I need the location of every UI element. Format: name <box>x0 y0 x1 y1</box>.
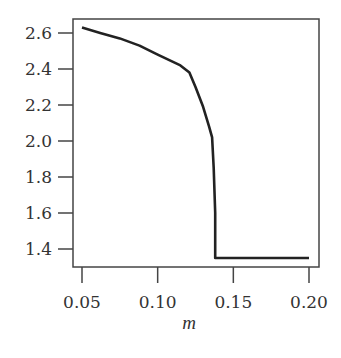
x-axis-title: m <box>182 312 196 333</box>
x-tick-label: 0.20 <box>290 292 328 312</box>
x-tick-label: 0.10 <box>139 292 177 312</box>
x-tick-label: 0.15 <box>214 292 252 312</box>
plot-frame <box>73 19 319 267</box>
y-tick-label: 2.6 <box>25 23 52 43</box>
y-tick-label: 1.4 <box>25 239 52 259</box>
x-axis: 0.050.100.150.20 <box>63 267 328 312</box>
y-tick-label: 2.0 <box>25 131 52 151</box>
y-tick-label: 2.2 <box>25 95 52 115</box>
chart: 2.62.42.22.01.81.61.4 0.050.100.150.20 m <box>0 0 341 358</box>
data-line <box>82 28 309 258</box>
y-tick-label: 2.4 <box>25 59 52 79</box>
y-axis: 2.62.42.22.01.81.61.4 <box>25 23 73 259</box>
x-tick-label: 0.05 <box>63 292 101 312</box>
y-tick-label: 1.8 <box>25 167 52 187</box>
y-tick-label: 1.6 <box>25 203 52 223</box>
